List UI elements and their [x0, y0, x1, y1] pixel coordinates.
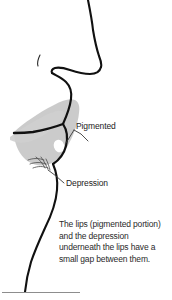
footer-divider — [2, 292, 80, 293]
figure-caption: The lips (pigmented portion) and the dep… — [59, 219, 169, 265]
callout-label-pigmented: Pigmented — [76, 121, 116, 131]
chin-jaw-line — [25, 164, 57, 292]
nose-bridge-line — [88, 0, 101, 67]
nostril-arc — [38, 55, 40, 66]
callout-label-depression: Depression — [66, 178, 108, 188]
figure-page: Pigmented Depression The lips (pigmented… — [0, 0, 172, 300]
pigmented-leader-line — [74, 130, 88, 141]
nose-tip-line — [52, 67, 101, 74]
